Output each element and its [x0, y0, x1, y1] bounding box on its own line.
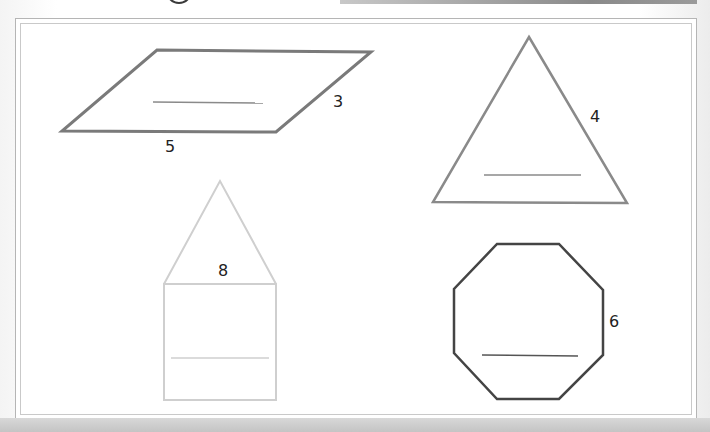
octagon-shape — [454, 244, 603, 399]
octagon-answer-line[interactable] — [482, 355, 578, 356]
parallelogram-side-label-3: 3 — [333, 94, 343, 110]
house-shape — [164, 181, 276, 400]
octagon-side-label-6: 6 — [609, 314, 619, 330]
shapes-canvas — [0, 0, 710, 432]
triangle-side-label-4: 4 — [590, 109, 600, 125]
page-bottom-edge — [0, 418, 710, 432]
parallelogram-side-label-5: 5 — [165, 139, 175, 155]
parallelogram-answer-line[interactable] — [153, 102, 263, 103]
parallelogram-shape — [62, 50, 371, 132]
house-side-label-8: 8 — [218, 263, 228, 279]
